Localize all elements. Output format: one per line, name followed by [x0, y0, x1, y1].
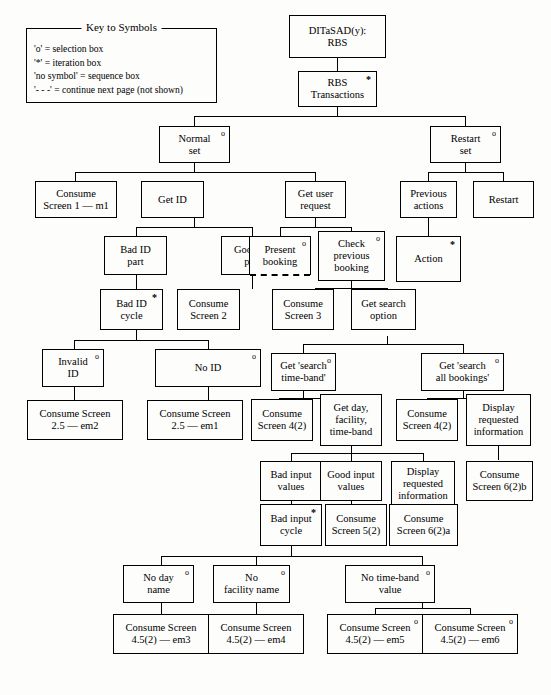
- node-consume-screen-3[interactable]: Consume Screen 3: [272, 289, 334, 330]
- node-good-input-values[interactable]: Good input values: [320, 461, 382, 501]
- connector: [256, 556, 257, 565]
- node-label: No day name: [143, 572, 174, 596]
- selection-marker: o: [509, 618, 513, 626]
- node-present-booking[interactable]: Present booking o: [249, 236, 311, 275]
- node-get-day-facility-time-band[interactable]: Get day, facility, time-band: [320, 394, 382, 446]
- selection-marker: o: [376, 235, 380, 243]
- connector: [498, 446, 499, 460]
- diagram-canvas: Key to Symbols 'o' = selection box '*' =…: [0, 0, 551, 695]
- node-rbs-transactions[interactable]: RBS Transactions *: [298, 71, 377, 107]
- connector: [428, 172, 503, 173]
- node-consume-screen-4-5-2-em6[interactable]: Consume Screen 4.5(2) — em6 o: [422, 614, 518, 654]
- node-label: Get 'search time-band': [280, 360, 327, 384]
- node-get-search-all-bookings[interactable]: Get 'search all bookings' o: [421, 353, 504, 391]
- connector: [422, 556, 423, 565]
- node-restart-set[interactable]: Restart set o: [430, 126, 501, 163]
- node-label: Get ID: [158, 194, 187, 206]
- connector: [503, 172, 504, 181]
- legend-title: Key to Symbols: [81, 21, 162, 33]
- node-label: Invalid ID: [58, 356, 88, 380]
- connector: [208, 340, 209, 349]
- connector: [208, 387, 209, 400]
- node-action[interactable]: Action *: [396, 236, 461, 282]
- node-consume-screen-4-2-right[interactable]: Consume Screen 4(2): [396, 399, 458, 441]
- node-consume-screen-4-5-2-em5[interactable]: Consume Screen 4.5(2) — em5 o: [327, 614, 423, 654]
- node-label: Normal set: [178, 133, 210, 157]
- node-bad-id-cycle[interactable]: Bad ID cycle *: [100, 289, 163, 330]
- node-label: Check previous booking: [333, 238, 369, 273]
- node-label: Consume Screen 4.5(2) — em4: [221, 622, 292, 646]
- connector: [256, 603, 257, 614]
- iteration-marker: *: [366, 75, 371, 85]
- node-bad-input-values[interactable]: Bad input values: [260, 461, 322, 501]
- node-no-id[interactable]: No ID o: [155, 349, 261, 387]
- node-no-facility-name[interactable]: No facility name o: [213, 565, 290, 603]
- node-label: Get day, facility, time-band: [330, 402, 373, 437]
- node-consume-screen-2-5-em1[interactable]: Consume Screen 2.5 — em1: [147, 400, 243, 440]
- connector: [136, 275, 137, 289]
- node-consume-screen-1[interactable]: Consume Screen 1 — m1: [35, 181, 117, 218]
- node-consume-screen-6-2-a[interactable]: Consume Screen 6(2)a: [389, 504, 458, 546]
- node-normal-set[interactable]: Normal set o: [159, 126, 230, 163]
- iteration-marker: *: [152, 293, 157, 303]
- selection-marker: o: [185, 569, 189, 577]
- node-label: Get user request: [298, 188, 333, 212]
- node-consume-screen-6-2-b[interactable]: Consume Screen 6(2)b: [466, 461, 533, 501]
- node-label: Bad input cycle: [270, 513, 311, 537]
- node-label: Consume Screen 2.5 — em2: [40, 408, 111, 432]
- node-consume-screen-2[interactable]: Consume Screen 2: [177, 289, 240, 330]
- node-invalid-id[interactable]: Invalid ID o: [42, 349, 104, 387]
- node-no-time-band-value[interactable]: No time-band value o: [345, 565, 435, 603]
- connector: [303, 344, 304, 353]
- node-label: Consume Screen 2: [189, 298, 229, 322]
- connector: [161, 556, 162, 565]
- node-bad-input-cycle[interactable]: Bad input cycle *: [260, 504, 322, 546]
- node-restart[interactable]: Restart: [473, 181, 534, 218]
- connector: [465, 116, 466, 126]
- node-label: Bad ID cycle: [116, 298, 147, 322]
- node-label: Good input values: [327, 469, 375, 493]
- node-label: Present booking: [263, 244, 297, 268]
- connector: [136, 227, 137, 236]
- node-label: Consume Screen 4.5(2) — em3: [126, 622, 197, 646]
- selection-marker: o: [302, 240, 306, 248]
- connector: [75, 172, 76, 181]
- node-label: No facility name: [224, 572, 279, 596]
- connector: [291, 453, 423, 454]
- node-no-day-name[interactable]: No day name o: [123, 565, 194, 603]
- node-label: Display requested information: [474, 402, 524, 437]
- node-consume-screen-4-2-left[interactable]: Consume Screen 4(2): [251, 399, 313, 441]
- node-display-requested-information-mid[interactable]: Display requested information: [391, 461, 455, 507]
- legend-item: 'no symbol' = sequence box: [34, 69, 216, 83]
- node-label: Previous actions: [410, 188, 447, 212]
- legend-key-to-symbols: Key to Symbols 'o' = selection box '*' =…: [26, 28, 217, 103]
- node-get-search-time-band[interactable]: Get 'search time-band' o: [271, 353, 336, 391]
- node-label: Bad input values: [270, 469, 311, 493]
- node-consume-screen-4-5-2-em3[interactable]: Consume Screen 4.5(2) — em3: [113, 614, 209, 654]
- node-consume-screen-4-5-2-em4[interactable]: Consume Screen 4.5(2) — em4: [208, 614, 304, 654]
- selection-marker: o: [495, 357, 499, 365]
- node-consume-screen-2-5-em2[interactable]: Consume Screen 2.5 — em2: [27, 400, 123, 440]
- node-label: Restart: [489, 194, 519, 206]
- connector: [337, 58, 338, 71]
- node-bad-id-part[interactable]: Bad ID part: [104, 236, 167, 275]
- selection-marker: o: [252, 353, 256, 361]
- node-consume-screen-5-2[interactable]: Consume Screen 5(2): [325, 504, 387, 546]
- node-get-id[interactable]: Get ID: [141, 181, 204, 218]
- node-label: Consume Screen 4(2): [403, 408, 452, 432]
- node-display-requested-information-right[interactable]: Display requested information: [466, 394, 531, 446]
- node-get-user-request[interactable]: Get user request: [285, 181, 346, 218]
- selection-marker: o: [426, 569, 430, 577]
- node-label: Consume Screen 5(2): [332, 513, 381, 537]
- connector: [303, 344, 463, 345]
- node-label: Consume Screen 2.5 — em1: [160, 408, 231, 432]
- connector: [75, 172, 316, 173]
- node-check-previous-booking[interactable]: Check previous booking o: [318, 231, 385, 281]
- connector: [161, 603, 162, 614]
- node-get-search-option[interactable]: Get search option: [351, 289, 416, 330]
- connector: [351, 453, 352, 461]
- legend-item: '- - -' = continue next page (not shown): [34, 83, 216, 97]
- node-previous-actions[interactable]: Previous actions: [400, 181, 457, 218]
- node-label: Consume Screen 4(2): [258, 408, 307, 432]
- node-root[interactable]: DITaSAD(y): RBS: [289, 15, 386, 58]
